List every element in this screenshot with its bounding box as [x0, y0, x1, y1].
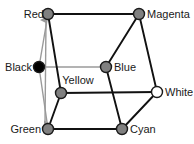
vertex-label-magenta: Magenta — [147, 9, 190, 20]
vertex-label-cyan: Cyan — [130, 124, 156, 135]
vertex-magenta[interactable] — [134, 9, 145, 20]
vertex-red[interactable] — [43, 9, 54, 20]
edge-magenta-white — [139, 14, 157, 92]
vertex-green[interactable] — [43, 124, 54, 135]
vertex-label-yellow: Yellow — [62, 75, 93, 86]
vertex-black[interactable] — [34, 62, 45, 73]
vertex-blue[interactable] — [101, 62, 112, 73]
vertex-white[interactable] — [152, 87, 163, 98]
vertex-label-blue: Blue — [114, 62, 136, 73]
edge-red-yellow — [48, 14, 61, 93]
edge-blue-cyan — [106, 67, 122, 129]
gray-axis-arrow-line — [45, 20, 46, 124]
edge-yellow-white — [61, 92, 157, 93]
vertex-label-white: White — [165, 87, 193, 98]
gray-axis-arrow — [45, 20, 46, 124]
diagram-canvas: RedMagentaBlackBlueYellowWhiteGreenCyan — [0, 0, 194, 144]
vertex-label-black: Black — [5, 62, 32, 73]
edge-magenta-blue — [106, 14, 139, 67]
vertex-yellow[interactable] — [56, 88, 67, 99]
vertex-cyan[interactable] — [117, 124, 128, 135]
vertex-label-red: Red — [24, 9, 44, 20]
vertex-label-green: Green — [10, 124, 41, 135]
edge-group-gray — [39, 14, 106, 129]
edge-black-green — [39, 67, 48, 129]
